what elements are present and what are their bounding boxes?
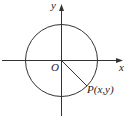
radius-segment-OP — [62, 61, 88, 87]
diagram-svg: y x O P(x,y) — [0, 0, 135, 127]
x-axis-label: x — [118, 61, 124, 73]
origin-label: O — [51, 61, 59, 73]
y-axis-label: y — [50, 0, 56, 11]
y-axis-arrow-icon — [59, 4, 64, 11]
unit-circle-diagram: y x O P(x,y) — [0, 0, 135, 127]
point-P-label: P(x,y) — [86, 83, 114, 96]
